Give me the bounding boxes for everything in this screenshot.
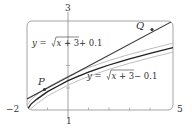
y-bottom-label: 1	[66, 116, 72, 126]
x-right-label: 5	[177, 104, 183, 114]
label-P: P	[37, 76, 45, 87]
y-top-label: 3	[65, 3, 71, 13]
svg-text:y =: y =	[86, 71, 102, 81]
svg-text:x + 3: x + 3	[57, 38, 80, 48]
lower-equation-label: y = x + 3 − 0.1	[86, 70, 157, 81]
tangent-line	[27, 21, 173, 99]
x-left-label: −2	[6, 104, 19, 114]
svg-text:y =: y =	[31, 38, 47, 48]
chart: P Q 3 1 −2 5 y = x + 3 + 0.1 y = x + 3 −…	[0, 0, 192, 133]
point-P	[43, 88, 46, 91]
upper-equation-label: y = x + 3 + 0.1	[31, 37, 102, 48]
lower-bound-curve	[27, 52, 173, 114]
svg-text:x + 3: x + 3	[112, 71, 135, 81]
svg-text:− 0.1: − 0.1	[134, 71, 157, 81]
label-Q: Q	[136, 20, 144, 31]
svg-text:+ 0.1: + 0.1	[79, 38, 102, 48]
viewing-rectangle	[27, 21, 173, 110]
point-Q	[150, 28, 153, 31]
